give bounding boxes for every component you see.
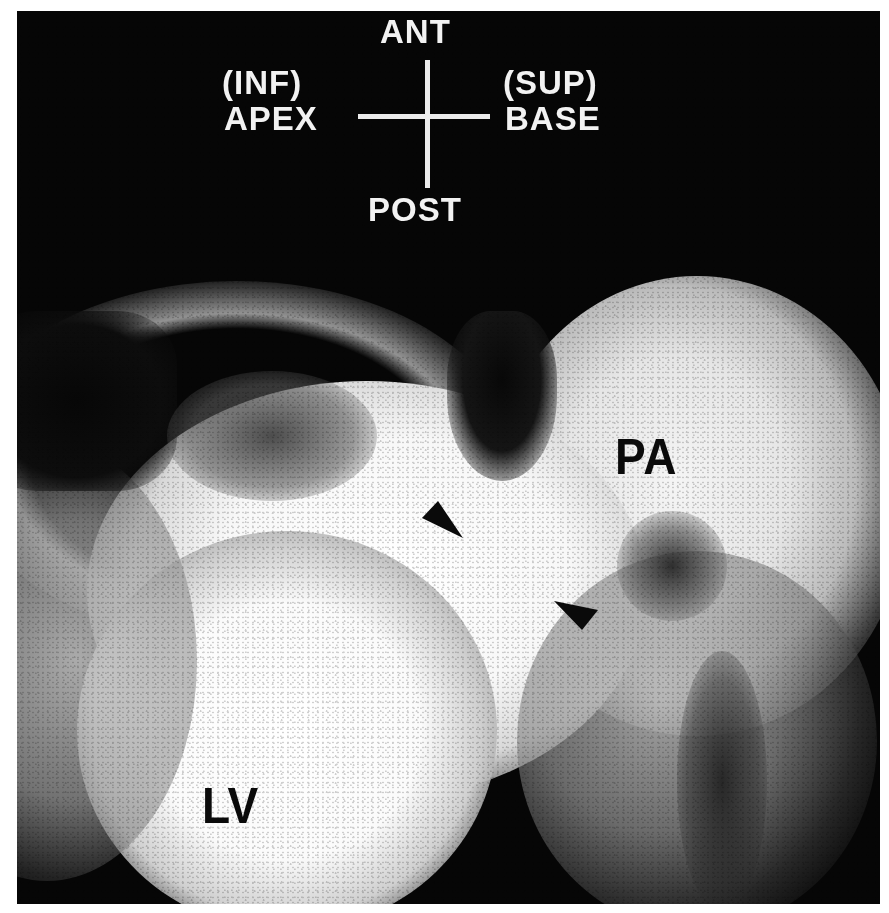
orientation-post: POST [368,193,462,226]
orientation-sup: (SUP) [503,66,598,99]
orientation-inf: (INF) [222,66,302,99]
orientation-ant: ANT [380,15,451,48]
orientation-base: BASE [505,102,601,135]
lv-label: LV [202,781,259,831]
film-grain [17,11,880,904]
orientation-cross-horizontal [358,114,490,119]
orientation-cross-vertical [425,60,430,188]
arrowhead-icon [420,498,470,543]
scintigram-plate [17,11,880,904]
pa-label: PA [615,432,677,482]
orientation-apex: APEX [224,102,318,135]
arrowhead-icon [552,598,602,633]
